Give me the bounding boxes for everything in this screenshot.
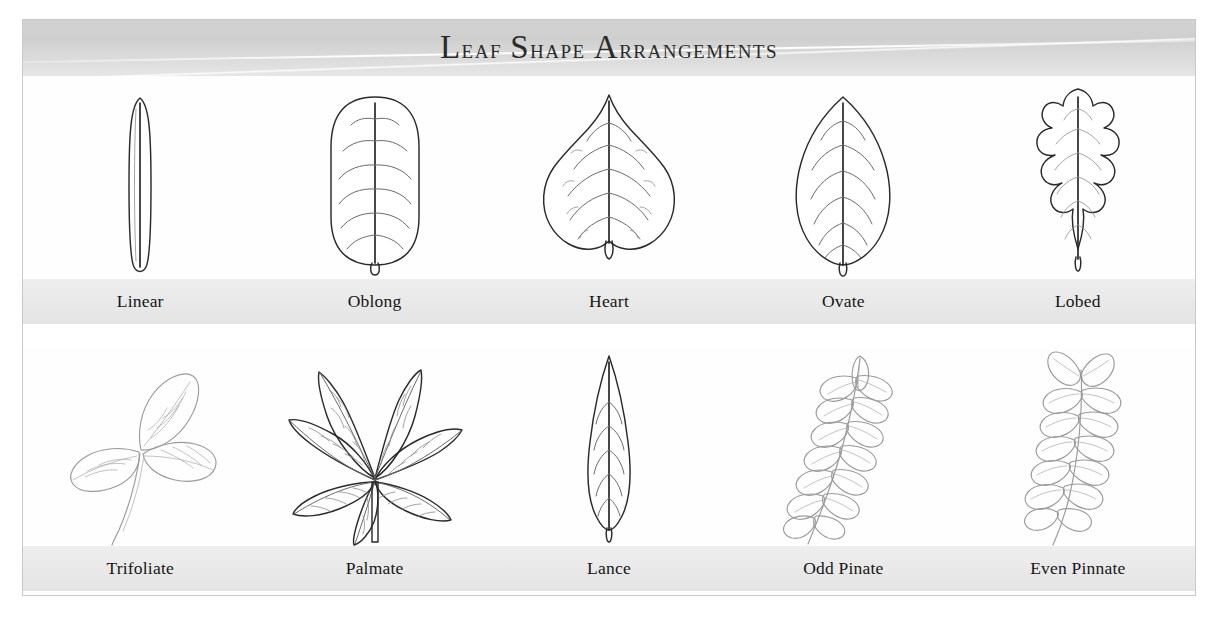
- specimen-label-ovate: Ovate: [726, 291, 960, 312]
- linear-leaf-icon: [100, 89, 180, 279]
- specimen-cell-palmate: [257, 346, 491, 546]
- oblong-leaf-icon: [311, 89, 439, 279]
- specimen-label-lobed: Lobed: [961, 291, 1195, 312]
- specimen-label-palmate: Palmate: [257, 558, 491, 579]
- specimen-row-2: Trifoliate Palmate Lance Odd Pinate Even…: [23, 346, 1195, 591]
- trifoliate-leaf-icon: [45, 346, 235, 546]
- specimen-cell-lobed: [961, 83, 1195, 279]
- ovate-leaf-icon: [777, 89, 909, 279]
- plate-header: Leaf Shape Arrangements: [23, 20, 1195, 76]
- page-title: Leaf Shape Arrangements: [23, 29, 1195, 66]
- heart-leaf-icon: [526, 89, 692, 279]
- specimen-label-heart: Heart: [492, 291, 726, 312]
- specimen-label-trifoliate: Trifoliate: [23, 558, 257, 579]
- specimen-row-1-figures: [23, 76, 1195, 279]
- palmate-leaf-icon: [277, 346, 473, 546]
- specimen-cell-odd-pinate: [726, 346, 960, 546]
- specimen-label-oblong: Oblong: [257, 291, 491, 312]
- specimen-cell-even-pinnate: [961, 346, 1195, 546]
- label-band-row-1: Linear Oblong Heart Ovate Lobed: [23, 279, 1195, 324]
- label-band-row-2: Trifoliate Palmate Lance Odd Pinate Even…: [23, 546, 1195, 591]
- specimen-label-even-pinnate: Even Pinnate: [961, 558, 1195, 579]
- odd-pinnate-leaf-icon: [768, 346, 918, 546]
- even-pinnate-leaf-icon: [1003, 346, 1153, 546]
- specimen-cell-linear: [23, 89, 257, 279]
- row-separator: [23, 324, 1195, 346]
- lobed-leaf-icon: [1022, 83, 1134, 279]
- specimen-row-1: Linear Oblong Heart Ovate Lobed: [23, 76, 1195, 324]
- specimen-row-2-figures: [23, 346, 1195, 546]
- illustration-plate: Leaf Shape Arrangements: [22, 19, 1196, 596]
- specimen-label-odd-pinate: Odd Pinate: [726, 558, 960, 579]
- lance-leaf-icon: [566, 350, 652, 546]
- specimen-cell-heart: [492, 89, 726, 279]
- specimen-cell-oblong: [257, 89, 491, 279]
- specimen-cell-lance: [492, 350, 726, 546]
- specimen-label-linear: Linear: [23, 291, 257, 312]
- specimen-cell-trifoliate: [23, 346, 257, 546]
- specimen-cell-ovate: [726, 89, 960, 279]
- specimen-label-lance: Lance: [492, 558, 726, 579]
